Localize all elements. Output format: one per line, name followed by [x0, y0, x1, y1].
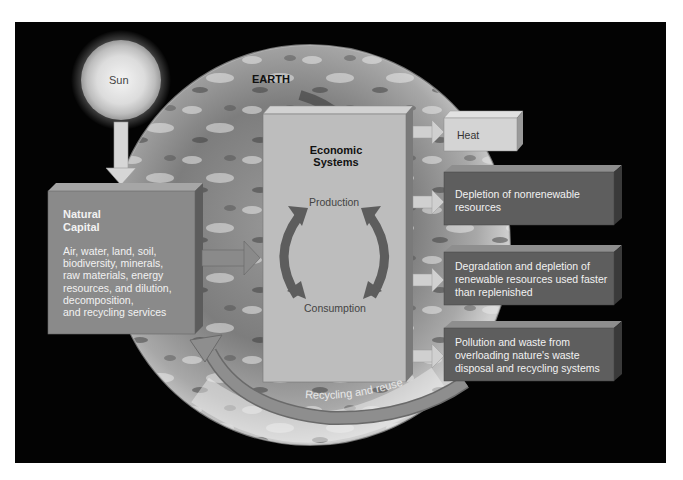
depletion-label: Depletion of nonrenewable resources	[455, 188, 580, 214]
sun-label: Sun	[109, 74, 129, 86]
heat-box	[444, 111, 523, 151]
natural-capital-title: Natural Capital	[63, 208, 101, 234]
diagram-graphics: Recycling and reuse	[0, 0, 683, 480]
economic-systems-title: Economic Systems	[308, 144, 364, 168]
production-label: Production	[309, 196, 359, 208]
degradation-label: Degradation and depletion of renewable r…	[455, 260, 607, 299]
heat-label: Heat	[457, 129, 479, 141]
consumption-label: Consumption	[304, 302, 366, 314]
earth-label: EARTH	[252, 73, 290, 85]
natural-capital-description: Air, water, land, soil, biodiversity, mi…	[63, 245, 172, 318]
pollution-label: Pollution and waste from overloading nat…	[455, 336, 600, 375]
